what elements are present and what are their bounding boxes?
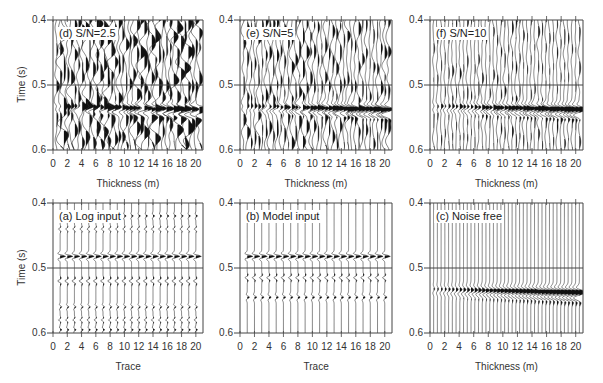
y-tick-label: 0.4 — [211, 198, 233, 208]
panel-f-sn-10: 0.40.50.602468101214161820Thickness (m)(… — [400, 0, 603, 190]
panel-c-noise-free: 0.40.50.602468101214161820Thickness (m)(… — [400, 183, 603, 383]
y-tick-label: 0.5 — [401, 263, 423, 273]
y-tick-label: 0.5 — [24, 263, 46, 273]
panel-label: (a) Log input — [57, 210, 123, 223]
x-axis-title: Thickness (m) — [475, 361, 538, 372]
x-tick-label: 20 — [377, 159, 393, 169]
y-tick-label: 0.4 — [24, 198, 46, 208]
y-tick-label: 0.6 — [24, 328, 46, 338]
panel-b-model-input: 0.40.50.602468101214161820Trace(b) Model… — [200, 183, 400, 383]
y-tick-label: 0.5 — [401, 80, 423, 90]
y-tick-label: 0.6 — [211, 145, 233, 155]
panel-d-sn-2-5: 0.40.50.602468101214161820Thickness (m)T… — [0, 0, 210, 190]
panel-label: (e) S/N=5 — [244, 27, 295, 40]
y-tick-label: 0.5 — [211, 263, 233, 273]
y-tick-label: 0.6 — [401, 328, 423, 338]
panel-label: (f) S/N=10 — [434, 27, 488, 40]
y-tick-label: 0.6 — [211, 328, 233, 338]
x-tick-label: 20 — [568, 159, 584, 169]
panel-a-log-input: 0.40.50.602468101214161820TraceTime (s)(… — [0, 183, 210, 383]
x-axis-title: Trace — [116, 361, 141, 372]
y-axis-title: Time (s) — [16, 249, 27, 285]
x-axis-title: Trace — [304, 361, 329, 372]
panel-e-sn-5: 0.40.50.602468101214161820Thickness (m)(… — [200, 0, 400, 190]
x-tick-label: 20 — [568, 342, 584, 352]
y-tick-label: 0.4 — [401, 15, 423, 25]
y-tick-label: 0.6 — [24, 145, 46, 155]
x-tick-label: 20 — [377, 342, 393, 352]
y-tick-label: 0.5 — [24, 80, 46, 90]
y-tick-label: 0.4 — [211, 15, 233, 25]
y-tick-label: 0.5 — [211, 80, 233, 90]
panel-label: (c) Noise free — [434, 210, 504, 223]
y-axis-title: Time (s) — [16, 66, 27, 102]
y-tick-label: 0.4 — [24, 15, 46, 25]
y-tick-label: 0.4 — [401, 198, 423, 208]
panel-label: (b) Model input — [244, 210, 321, 223]
y-tick-label: 0.6 — [401, 145, 423, 155]
panel-label: (d) S/N=2.5 — [57, 27, 118, 40]
